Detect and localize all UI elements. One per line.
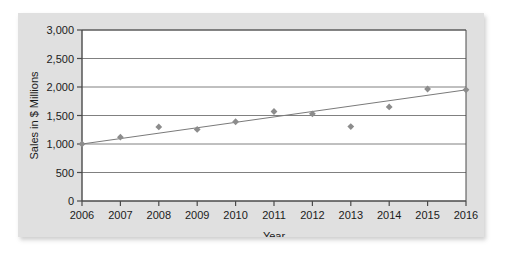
y-tick-label-500: 500 [56,167,74,179]
x-tick-label-2013: 2013 [339,209,363,221]
chart-figure: 05001,0001,5002,0002,5003,00020062007200… [0,0,505,258]
scatter-plot: 05001,0001,5002,0002,5003,00020062007200… [18,13,484,237]
x-tick-label-2009: 2009 [185,209,209,221]
y-tick-label-1000: 1,000 [46,138,74,150]
x-tick-label-2010: 2010 [223,209,247,221]
x-tick-label-2011: 2011 [262,209,286,221]
x-tick-label-2008: 2008 [147,209,171,221]
chart-panel: 05001,0001,5002,0002,5003,00020062007200… [18,13,484,237]
x-tick-label-2016: 2016 [454,209,478,221]
y-tick-label-1500: 1,500 [46,110,74,122]
x-tick-label-2007: 2007 [108,209,132,221]
x-axis-title: Year [263,230,286,237]
x-tick-label-2012: 2012 [300,209,324,221]
x-tick-label-2015: 2015 [415,209,439,221]
y-tick-label-2000: 2,000 [46,81,74,93]
y-axis-title: Sales in $ Millions [28,71,40,160]
x-tick-label-2006: 2006 [70,209,94,221]
y-tick-label-3000: 3,000 [46,24,74,36]
x-tick-label-2014: 2014 [377,209,401,221]
y-tick-label-2500: 2,500 [46,53,74,65]
y-tick-label-0: 0 [68,195,74,207]
